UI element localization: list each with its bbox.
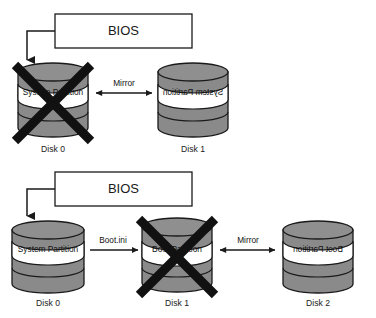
- bottom-disk-0-top: [12, 221, 84, 239]
- bios-box-top: BIOS: [55, 14, 192, 48]
- bottom-disk-2-partition-label: Boot Partition: [293, 244, 343, 254]
- bios-box-bottom: BIOS: [55, 172, 192, 206]
- bios-box-top-label: BIOS: [108, 23, 139, 38]
- bottom-disk-1-caption: Disk 1: [165, 298, 189, 308]
- top-disk-1-caption: Disk 1: [181, 144, 205, 154]
- top-disk-1-partition-label: System Partition: [162, 87, 223, 97]
- bios-box-bottom-label: BIOS: [108, 181, 139, 196]
- bios-mirror-diagram: BIOS System Partition Disk 0: [0, 0, 376, 318]
- bootini-label: Boot.ini: [99, 235, 127, 245]
- top-mirror-label: Mirror: [113, 78, 135, 88]
- bottom-disk-0-partition-label: System Partition: [18, 244, 79, 254]
- diagram-canvas: BIOS System Partition Disk 0: [0, 0, 376, 318]
- bottom-mirror-label: Mirror: [237, 235, 259, 245]
- bottom-disk-2-top: [283, 221, 353, 239]
- top-disk-0-partition-label: System Partition: [23, 87, 84, 97]
- bottom-disk-0-caption: Disk 0: [36, 298, 60, 308]
- top-disk-1-top: [158, 63, 228, 81]
- bottom-disk-2-caption: Disk 2: [306, 298, 330, 308]
- top-disk-0-caption: Disk 0: [41, 144, 65, 154]
